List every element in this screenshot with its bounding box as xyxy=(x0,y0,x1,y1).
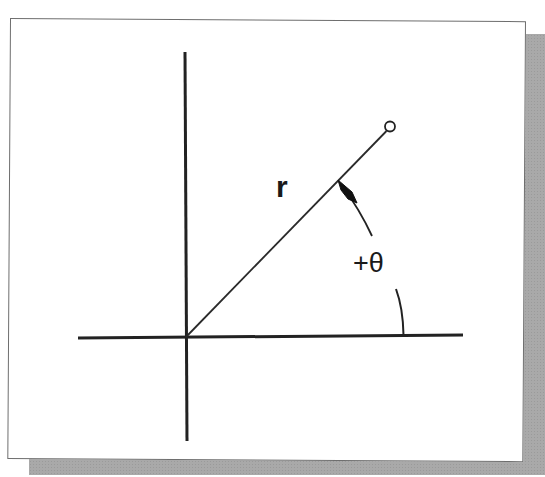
diagram-canvas: r +θ xyxy=(0,0,545,477)
radius-line xyxy=(186,131,387,337)
arc-arrowhead-icon xyxy=(338,180,357,203)
vertical-axis xyxy=(185,52,187,441)
horizontal-axis xyxy=(78,335,463,338)
point-marker-icon xyxy=(385,122,395,132)
radius-label: r xyxy=(276,170,288,203)
angle-label: +θ xyxy=(353,248,384,278)
angle-arc-lower xyxy=(396,289,404,335)
polar-coordinate-diagram: r +θ xyxy=(0,0,545,477)
